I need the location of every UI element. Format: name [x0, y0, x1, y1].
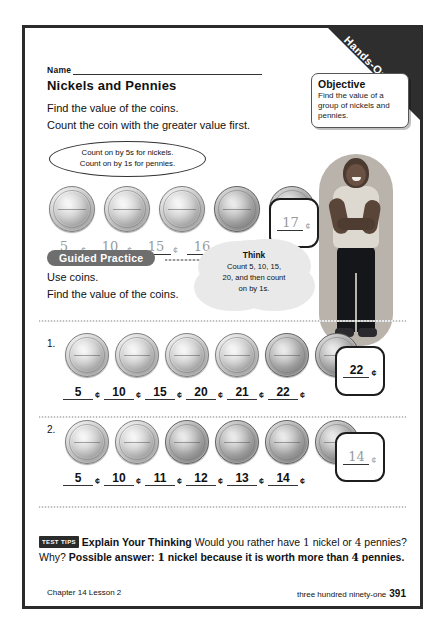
example-total-value: 17: [277, 216, 303, 231]
objective-box: Objective Find the value of a group of n…: [311, 73, 409, 128]
problem-1-answer-cent-1: ¢: [95, 390, 100, 400]
nickel-coin-face: [121, 426, 153, 458]
penny-coin: [214, 186, 260, 232]
name-field-row[interactable]: Name: [47, 65, 262, 75]
hint-line-1: Count on by 5s for nickels.: [82, 148, 174, 159]
nickel-coin-detail: [124, 355, 151, 356]
penny-coin: [165, 420, 209, 464]
chapter-lesson-label: Chapter 14 Lesson 2: [47, 588, 121, 597]
penny-coin-detail: [174, 442, 201, 443]
problem-2-answer-value-5: 13: [227, 472, 257, 486]
penny-coin-detail: [274, 355, 301, 356]
penny-coin-detail: [224, 442, 251, 443]
instructions: Find the value of the coins. Count the c…: [47, 100, 250, 133]
problem-1-total-box[interactable]: 22 ¢: [335, 346, 385, 396]
problem-1-answer-cent-4: ¢: [218, 390, 223, 400]
problem-2-answer-blank-1[interactable]: 5¢: [63, 472, 100, 486]
problem-1-answer-value-5: 21: [227, 386, 257, 400]
test-tips-answer-num-1: 1: [157, 551, 164, 563]
problem-2-answer-blank-6[interactable]: 14¢: [268, 472, 305, 486]
problem-1-answer-value-6: 22: [268, 386, 298, 400]
guided-line-2: Find the value of the coins.: [47, 286, 178, 303]
test-tips-answer-3: pennies.: [362, 551, 405, 563]
problem-2-answer-value-4: 12: [186, 472, 216, 486]
section-divider-bottom: [39, 506, 406, 508]
nickel-coin: [159, 186, 205, 232]
problem-1-answer-value-3: 15: [145, 386, 175, 400]
problem-2-answer-blank-4[interactable]: 12¢: [186, 472, 223, 486]
example-total-box[interactable]: 17 ¢: [269, 198, 319, 248]
test-tips-heading: Explain Your Thinking: [82, 536, 192, 548]
example-total-blank[interactable]: 17 ¢: [277, 216, 310, 231]
problem-2-total-cent: ¢: [371, 455, 376, 465]
problem-1-answer-blank-3[interactable]: 15¢: [145, 386, 182, 400]
nickel-coin-detail: [174, 355, 201, 356]
nickel-coin: [115, 420, 159, 464]
page-title: Nickels and Pennies: [47, 78, 177, 93]
problem-2-answer-cent-4: ¢: [218, 476, 223, 486]
penny-coin-face: [271, 339, 303, 371]
nickel-coin: [165, 333, 209, 377]
example-answer-value-4: 16: [187, 240, 217, 255]
photo-leg-split: [355, 273, 357, 333]
nickel-coin: [49, 186, 95, 232]
nickel-coin-detail: [74, 442, 101, 443]
student-photo: [313, 148, 399, 348]
think-line-1: Count 5, 10, 15,: [227, 262, 281, 273]
nickel-coin-face: [121, 339, 153, 371]
problem-1-answer-blank-6[interactable]: 22¢: [268, 386, 305, 400]
test-tips-block: TEST TIPS Explain Your Thinking Would yo…: [39, 535, 410, 565]
problem-1-answer-cent-3: ¢: [177, 390, 182, 400]
name-input-line[interactable]: [73, 65, 262, 75]
problem-1-total-blank[interactable]: 22 ¢: [343, 364, 376, 378]
problem-2-total-box[interactable]: 14 ¢: [335, 432, 385, 482]
worksheet-page: Hands-On Name Nickels and Pennies Find t…: [22, 25, 423, 609]
test-tips-answer-2: nickel because it is worth more than: [168, 551, 349, 563]
nickel-coin-detail: [124, 442, 151, 443]
hint-bubble: Count on by 5s for nickels. Count on by …: [49, 141, 206, 177]
problem-2-answer-cent-3: ¢: [177, 476, 182, 486]
problem-2-answer-cent-5: ¢: [259, 476, 264, 486]
nickel-coin: [65, 420, 109, 464]
penny-coin-detail: [274, 442, 301, 443]
example-answer-cent-3: ¢: [173, 245, 178, 255]
name-label: Name: [47, 65, 71, 75]
nickel-coin: [104, 186, 150, 232]
penny-coin-face: [220, 192, 254, 226]
problem-1-answer-cent-2: ¢: [136, 390, 141, 400]
problem-1-total-value: 22: [343, 364, 369, 378]
nickel-coin: [115, 333, 159, 377]
guided-practice-label: Guided Practice: [47, 250, 155, 266]
problem-2-answer-value-3: 11: [145, 472, 175, 486]
problem-1-total-cent: ¢: [371, 368, 376, 378]
page-footer: three hundred ninety-one391: [297, 588, 406, 599]
problem-2-answer-row[interactable]: 5¢10¢11¢12¢13¢14¢: [63, 472, 305, 486]
page-number: 391: [389, 588, 406, 599]
problem-1-answer-blank-2[interactable]: 10¢: [104, 386, 141, 400]
nickel-coin: [215, 333, 259, 377]
problem-1-answer-row[interactable]: 5¢10¢15¢20¢21¢22¢: [63, 386, 305, 400]
nickel-coin-detail: [224, 355, 251, 356]
problem-2-answer-blank-5[interactable]: 13¢: [227, 472, 264, 486]
problem-1-answer-blank-4[interactable]: 20¢: [186, 386, 223, 400]
think-cloud: Think Count 5, 10, 15, 20, and then coun…: [206, 240, 302, 304]
test-tips-badge: TEST TIPS: [39, 536, 79, 548]
example-total-cent: ¢: [305, 221, 310, 231]
nickel-coin-face: [171, 339, 203, 371]
think-title: Think: [243, 250, 265, 262]
penny-coin-detail: [223, 209, 251, 210]
problem-2-answer-blank-2[interactable]: 10¢: [104, 472, 141, 486]
problem-1-answer-cent-5: ¢: [259, 390, 264, 400]
problem-1-answer-value-2: 10: [104, 386, 134, 400]
problem-2-answer-blank-3[interactable]: 11¢: [145, 472, 182, 486]
penny-coin: [215, 420, 259, 464]
think-line-2: 20, and then count: [223, 273, 286, 284]
nickel-coin-face: [71, 339, 103, 371]
problem-2-number: 2.: [47, 424, 55, 435]
problem-1-answer-blank-1[interactable]: 5¢: [63, 386, 100, 400]
instruction-line-2: Count the coin with the greater value fi…: [47, 117, 250, 134]
problem-2-total-blank[interactable]: 14 ¢: [343, 450, 376, 465]
problem-1-answer-blank-5[interactable]: 21¢: [227, 386, 264, 400]
nickel-coin-detail: [58, 209, 86, 210]
test-tips-num-1: 1: [303, 536, 310, 548]
